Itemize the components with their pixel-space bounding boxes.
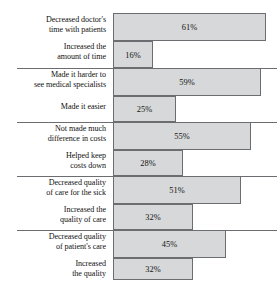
bar-value-6: 51%: [114, 186, 240, 195]
category-label-9-line2: the quality: [0, 269, 106, 279]
category-label-0: Decreased doctor's time with patients: [0, 15, 110, 34]
category-label-4-line1: Not made much: [0, 124, 106, 134]
bar-9: 32%: [113, 258, 193, 280]
category-label-7-line2: quality of care: [0, 215, 106, 225]
bar-value-8: 45%: [114, 240, 225, 249]
category-label-0-line1: Decreased doctor's: [0, 15, 106, 25]
category-label-7: Increased the quality of care: [0, 205, 110, 224]
bar-value-3: 25%: [114, 105, 175, 114]
category-label-6-line2: of care for the sick: [0, 188, 106, 198]
bar-6: 51%: [113, 176, 241, 204]
bar-3: 25%: [113, 96, 176, 122]
category-label-5-line2: costs down: [0, 161, 106, 171]
category-label-3-line1: Made it easier: [0, 102, 106, 112]
category-label-5: Helped keep costs down: [0, 151, 110, 170]
category-label-6: Decreased quality of care for the sick: [0, 178, 110, 197]
category-label-6-line1: Decreased quality: [0, 178, 106, 188]
plot-area: 61% 16% 59% 25% 55% 28% 51% 32% 45% 32%: [113, 0, 277, 291]
category-label-2: Made it harder to see medical specialist…: [0, 70, 110, 89]
category-label-7-line1: Increased the: [0, 205, 106, 215]
bar-0: 61%: [113, 13, 266, 41]
bar-value-9: 32%: [114, 265, 192, 274]
bar-7: 32%: [113, 204, 193, 230]
bar-value-1: 16%: [114, 50, 152, 59]
category-label-8-line1: Decreased quality: [0, 232, 106, 242]
category-label-0-line2: time with patients: [0, 25, 106, 35]
category-label-9: Increased the quality: [0, 259, 110, 278]
category-label-5-line1: Helped keep: [0, 151, 106, 161]
category-label-2-line1: Made it harder to: [0, 70, 106, 80]
bar-4: 55%: [113, 122, 251, 150]
bar-8: 45%: [113, 230, 226, 258]
bar-value-0: 61%: [114, 23, 265, 32]
bar-5: 28%: [113, 150, 183, 176]
category-label-9-line1: Increased: [0, 259, 106, 269]
category-label-4-line2: difference in costs: [0, 134, 106, 144]
category-label-2-line2: see medical specialists: [0, 80, 106, 90]
category-label-1-line2: amount of time: [0, 52, 106, 62]
bar-value-2: 59%: [114, 78, 260, 87]
category-label-1-line1: Increased the: [0, 42, 106, 52]
bar-2: 59%: [113, 68, 261, 96]
category-label-8-line2: of patient's care: [0, 242, 106, 252]
bar-value-7: 32%: [114, 213, 192, 222]
horizontal-bar-chart: Decreased doctor's time with patients In…: [0, 0, 277, 291]
category-label-8: Decreased quality of patient's care: [0, 232, 110, 251]
bar-value-5: 28%: [114, 159, 182, 168]
bar-1: 16%: [113, 41, 153, 68]
bar-value-4: 55%: [114, 132, 250, 141]
category-label-1: Increased the amount of time: [0, 42, 110, 61]
category-label-4: Not made much difference in costs: [0, 124, 110, 143]
category-label-3: Made it easier: [0, 102, 110, 112]
